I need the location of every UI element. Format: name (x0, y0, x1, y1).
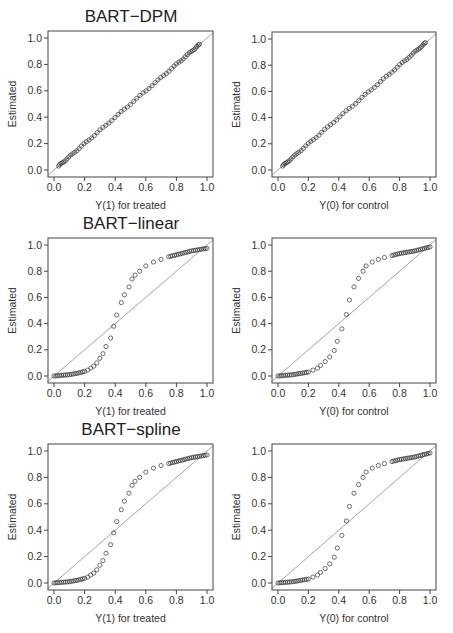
y-tick-label: 1.0 (27, 445, 42, 457)
x-tick-label: 0.8 (392, 181, 407, 193)
x-tick-label: 0.6 (362, 181, 377, 193)
x-axis-label: Y(1) for treated (95, 199, 166, 211)
x-tick-label: 0.2 (301, 594, 316, 606)
x-tick-label: 1.0 (423, 181, 438, 193)
y-axis-label: Estimated (6, 80, 18, 127)
y-tick-label: 0.6 (27, 84, 42, 96)
y-tick-label: 0.2 (251, 550, 266, 562)
y-axis-label: Estimated (230, 287, 242, 334)
y-tick-label: 0.6 (27, 291, 42, 303)
y-tick-label: 0.4 (251, 317, 266, 329)
y-tick-label: 0.8 (251, 471, 266, 483)
plot-spline-treated: 0.00.20.40.60.81.00.00.20.40.60.81.0Y(1)… (6, 444, 214, 624)
x-axis-label: Y(0) for control (319, 199, 388, 211)
x-tick-label: 0.6 (362, 387, 377, 399)
reference-line (48, 240, 213, 381)
plot-linear-treated: 0.00.20.40.60.81.00.00.20.40.60.81.0Y(1)… (6, 238, 214, 417)
y-axis-label: Estimated (230, 493, 242, 540)
plot-dpm-control: 0.00.20.40.60.81.00.00.20.40.60.81.0Y(0)… (230, 32, 437, 211)
panel-title-linear: BART−linear (83, 214, 180, 233)
y-tick-label: 0.2 (27, 343, 42, 355)
x-tick-label: 0.8 (169, 594, 184, 606)
y-tick-label: 0.6 (251, 497, 266, 509)
x-tick-label: 0.6 (362, 594, 377, 606)
y-tick-label: 0.8 (27, 58, 42, 70)
y-tick-label: 0.4 (27, 317, 42, 329)
y-tick-label: 0.0 (27, 164, 42, 176)
plot-linear-control: 0.00.20.40.60.81.00.00.20.40.60.81.0Y(0)… (230, 238, 437, 417)
y-tick-label: 0.6 (27, 497, 42, 509)
y-axis-label: Estimated (6, 493, 18, 540)
y-tick-label: 0.0 (27, 370, 42, 382)
x-tick-label: 0.4 (331, 181, 346, 193)
x-tick-label: 0.2 (77, 181, 92, 193)
panel-title-spline: BART−spline (81, 420, 180, 439)
x-tick-label: 0.0 (47, 387, 62, 399)
y-tick-label: 0.0 (251, 370, 266, 382)
x-tick-label: 0.2 (77, 387, 92, 399)
x-tick-label: 0.0 (271, 181, 286, 193)
reference-line (272, 446, 436, 588)
y-tick-label: 0.8 (27, 265, 42, 277)
y-tick-label: 1.0 (27, 32, 42, 44)
x-tick-label: 1.0 (423, 594, 438, 606)
x-tick-label: 0.8 (392, 387, 407, 399)
y-tick-label: 0.4 (251, 111, 266, 123)
x-tick-label: 0.6 (138, 594, 153, 606)
y-tick-label: 0.2 (27, 137, 42, 149)
y-tick-label: 0.2 (27, 550, 42, 562)
plot-spline-control: 0.00.20.40.60.81.00.00.20.40.60.81.0Y(0)… (230, 444, 437, 624)
plot-dpm-treated: 0.00.20.40.60.81.00.00.20.40.60.81.0Y(1)… (6, 31, 214, 211)
x-tick-label: 0.6 (138, 387, 153, 399)
panel-title-dpm: BART−DPM (85, 7, 178, 26)
scatter-points (52, 246, 209, 378)
x-tick-label: 0.8 (392, 594, 407, 606)
x-tick-label: 1.0 (423, 387, 438, 399)
x-tick-label: 0.2 (301, 387, 316, 399)
x-tick-label: 1.0 (200, 181, 215, 193)
x-tick-label: 0.4 (108, 594, 123, 606)
y-tick-label: 1.0 (251, 239, 266, 251)
y-tick-label: 0.2 (251, 137, 266, 149)
x-tick-label: 0.4 (331, 594, 346, 606)
y-tick-label: 1.0 (27, 239, 42, 251)
reference-line (272, 240, 436, 381)
y-tick-label: 0.6 (251, 291, 266, 303)
y-axis-label: Estimated (230, 81, 242, 128)
reference-line (48, 446, 213, 588)
x-tick-label: 0.8 (169, 387, 184, 399)
y-tick-label: 0.0 (251, 164, 266, 176)
y-tick-label: 0.4 (27, 111, 42, 123)
x-axis-label: Y(0) for control (319, 612, 388, 624)
y-tick-label: 0.0 (27, 577, 42, 589)
x-axis-label: Y(0) for control (319, 405, 388, 417)
x-tick-label: 0.6 (138, 181, 153, 193)
x-tick-label: 1.0 (200, 387, 215, 399)
figure-grid: BART−DPM BART−linear BART−spline 0.00.20… (0, 0, 453, 633)
y-tick-label: 0.2 (251, 343, 266, 355)
x-tick-label: 0.4 (108, 181, 123, 193)
x-tick-label: 0.0 (271, 594, 286, 606)
scatter-points (52, 453, 209, 585)
x-tick-label: 0.4 (331, 387, 346, 399)
y-tick-label: 1.0 (251, 33, 266, 45)
y-tick-label: 0.4 (251, 524, 266, 536)
y-tick-label: 0.4 (27, 524, 42, 536)
x-tick-label: 0.0 (47, 594, 62, 606)
x-axis-label: Y(1) for treated (95, 612, 166, 624)
x-tick-label: 0.0 (271, 387, 286, 399)
x-axis-label: Y(1) for treated (95, 405, 166, 417)
x-tick-label: 0.2 (77, 594, 92, 606)
x-tick-label: 0.0 (47, 181, 62, 193)
y-tick-label: 0.8 (251, 265, 266, 277)
y-tick-label: 0.8 (27, 471, 42, 483)
x-tick-label: 0.2 (301, 181, 316, 193)
y-axis-label: Estimated (6, 287, 18, 334)
x-tick-label: 1.0 (200, 594, 215, 606)
y-tick-label: 0.0 (251, 577, 266, 589)
y-tick-label: 0.8 (251, 59, 266, 71)
y-tick-label: 1.0 (251, 445, 266, 457)
x-tick-label: 0.4 (108, 387, 123, 399)
y-tick-label: 0.6 (251, 85, 266, 97)
x-tick-label: 0.8 (169, 181, 184, 193)
